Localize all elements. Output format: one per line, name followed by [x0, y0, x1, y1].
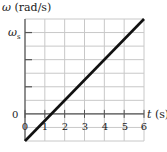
y-tick-omega-s: ωs [8, 27, 21, 41]
y-axis-symbol: ω [2, 1, 11, 14]
x-axis-label: t (s) [147, 109, 167, 120]
omega-s-subscript: s [17, 33, 21, 41]
x-tick-3: 3 [82, 122, 88, 132]
x-axis-unit: (s) [151, 108, 167, 121]
x-tick-6: 6 [141, 122, 147, 132]
x-tick-0: 0 [22, 122, 28, 132]
omega-s-symbol: ω [8, 26, 17, 39]
x-tick-1: 1 [42, 122, 48, 132]
y-tick-zero: 0 [12, 110, 18, 120]
x-tick-4: 4 [102, 122, 108, 132]
y-axis-unit: (rad/s) [11, 1, 51, 14]
x-tick-5: 5 [122, 122, 128, 132]
x-tick-2: 2 [62, 122, 68, 132]
y-axis-label: ω (rad/s) [2, 2, 51, 13]
